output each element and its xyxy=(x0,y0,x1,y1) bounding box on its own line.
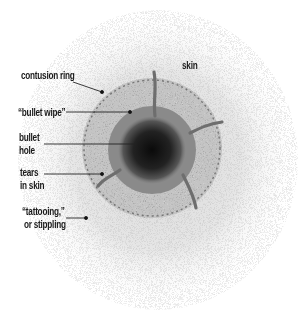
label-bullet-wipe: “bullet wipe” xyxy=(18,107,65,119)
label-tears-line2: in skin xyxy=(20,180,44,192)
label-bullet-hole-line1: bullet xyxy=(19,132,39,144)
wound-diagram: skin contusion ring “bullet wipe” bullet… xyxy=(0,0,302,329)
label-contusion-ring: contusion ring xyxy=(21,70,75,82)
label-bullet-hole-line2: hole xyxy=(19,145,35,157)
label-skin: skin xyxy=(182,60,197,72)
label-tears-line1: tears xyxy=(20,167,38,179)
wound-illustration xyxy=(0,0,302,329)
label-tattooing-line2: or stippling xyxy=(24,219,66,231)
label-tattooing-line1: “tattooing,” xyxy=(22,206,65,218)
bullet-hole xyxy=(118,116,186,184)
